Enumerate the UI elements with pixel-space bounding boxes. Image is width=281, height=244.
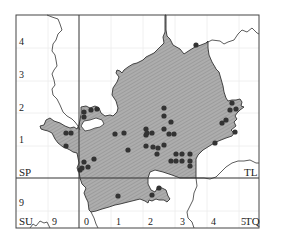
grid-label-su: SU (19, 215, 33, 227)
record-dot (173, 158, 178, 163)
record-dot (143, 143, 148, 148)
record-dot (115, 193, 120, 198)
record-dot (155, 145, 160, 150)
record-dot (168, 119, 173, 124)
record-dot (227, 107, 232, 112)
left-axis-label: 2 (19, 102, 24, 113)
left-axis-label: 9 (19, 197, 24, 208)
record-dot (161, 142, 166, 147)
record-dot (219, 120, 224, 125)
record-dot (161, 113, 166, 118)
record-dot (212, 140, 217, 145)
boundary-line-south (187, 178, 197, 228)
record-dot (144, 130, 149, 135)
record-dot (150, 144, 155, 149)
record-dot (179, 151, 184, 156)
bottom-axis-label: 2 (148, 216, 153, 227)
record-dot (94, 106, 99, 111)
record-dot (121, 130, 126, 135)
bottom-axis-label: 4 (211, 216, 216, 227)
county-region (40, 15, 244, 212)
record-dot (149, 130, 154, 135)
record-dot (173, 151, 178, 156)
map-canvas: 43219 9012345 SP TL SU TQ (0, 0, 281, 244)
record-dot (161, 105, 166, 110)
left-axis-labels: 43219 (19, 36, 24, 208)
grid-label-tl: TL (244, 166, 258, 178)
record-dot (154, 151, 159, 156)
record-dot (193, 42, 198, 47)
left-axis-label: 1 (19, 134, 24, 145)
record-dot (81, 114, 86, 119)
record-dot (187, 151, 192, 156)
bottom-axis-label: 3 (180, 216, 185, 227)
record-dot (149, 192, 154, 197)
record-dot (179, 158, 184, 163)
record-dot (68, 130, 73, 135)
record-dot (112, 131, 117, 136)
bottom-axis-label: 1 (116, 216, 121, 227)
record-dot (166, 131, 171, 136)
record-dot (229, 100, 234, 105)
record-dot (168, 158, 173, 163)
bottom-axis-labels: 9012345 (52, 216, 246, 227)
record-dot (91, 156, 96, 161)
record-dot (187, 163, 192, 168)
distribution-map: 43219 9012345 SP TL SU TQ (0, 0, 281, 244)
boundary-line-northeast (206, 28, 259, 44)
grid-label-tq: TQ (245, 215, 260, 227)
record-dot (187, 158, 192, 163)
record-dot (81, 109, 86, 114)
record-dot (233, 106, 238, 111)
grid-label-sp: SP (19, 166, 31, 178)
record-dot (171, 131, 176, 136)
left-axis-label: 4 (19, 36, 24, 47)
boundary-line-southwest (91, 212, 98, 228)
bottom-axis-label: 9 (52, 216, 57, 227)
record-dot (161, 126, 166, 131)
record-dot (63, 130, 68, 135)
record-dot (156, 185, 161, 190)
record-dot (232, 129, 237, 134)
record-dot (77, 167, 82, 172)
left-axis-label: 3 (19, 69, 24, 80)
record-dot (81, 159, 86, 164)
record-dot (85, 164, 90, 169)
bottom-axis-label: 0 (84, 216, 89, 227)
record-dot (88, 107, 93, 112)
record-dot (63, 143, 68, 148)
record-dot (125, 147, 130, 152)
